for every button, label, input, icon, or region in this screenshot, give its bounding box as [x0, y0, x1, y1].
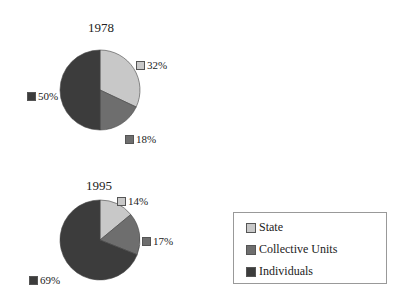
individuals-swatch-icon [246, 267, 256, 277]
individuals-swatch-icon [29, 276, 38, 285]
legend: State Collective Units Individuals [233, 212, 387, 284]
individuals-swatch-icon [27, 92, 36, 101]
pie-1995-state-label: 14% [117, 195, 148, 207]
pie-chart-1978 [58, 48, 142, 132]
pie-1995-title: 1995 [86, 178, 112, 194]
legend-item-individuals: Individuals [246, 264, 313, 279]
pie-slice-individuals [60, 50, 100, 130]
pie-chart-1995 [58, 198, 142, 282]
pie-1978-state-label: 32% [136, 59, 167, 71]
pie-1995-collective-label: 17% [142, 235, 173, 247]
state-swatch-icon [246, 223, 256, 233]
legend-item-collective-units: Collective Units [246, 242, 337, 257]
pie-1978-title: 1978 [88, 20, 114, 36]
state-swatch-icon [117, 197, 126, 206]
collective-swatch-icon [125, 135, 134, 144]
state-swatch-icon [136, 61, 145, 70]
collective-swatch-icon [246, 245, 256, 255]
collective-swatch-icon [142, 237, 151, 246]
pie-1978-individuals-label: 50% [27, 90, 58, 102]
pie-1978-collective-label: 18% [125, 133, 156, 145]
pie-1995-individuals-label: 69% [29, 274, 60, 286]
legend-item-state: State [246, 220, 283, 235]
